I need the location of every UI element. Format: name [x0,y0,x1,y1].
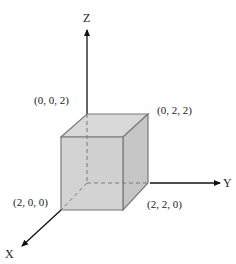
cube-front-face [61,137,123,210]
z-axis-label: Z [83,11,90,25]
vertex-label-0-0-2: (0, 0, 2) [34,94,69,107]
vertex-label-2-0-0: (2, 0, 0) [13,196,48,209]
x-axis-line [22,210,61,246]
cube [61,114,148,210]
coordinate-cube-diagram: Z Y X (0, 0, 2) (0, 2, 2) (2, 0, 0) (2, … [0,0,236,264]
vertex-label-0-2-2: (0, 2, 2) [157,104,192,117]
y-axis-label: Y [223,176,232,190]
vertex-label-2-2-0: (2, 2, 0) [147,198,182,211]
x-axis-label: X [5,247,14,261]
